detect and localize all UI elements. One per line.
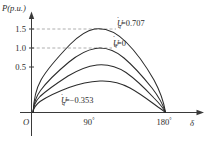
svg-text:U̇q=0: U̇q=0	[113, 36, 126, 48]
label3-dot: ̇	[61, 94, 63, 95]
x-axis-arrow	[197, 110, 205, 115]
label3-value: −0.353	[70, 96, 94, 105]
curve-uq-0	[33, 48, 166, 112]
curve-label-uq-0: U̇q=0	[113, 36, 126, 48]
label1-value: 0.707	[126, 19, 145, 28]
svg-text:U̇q=−0.353: U̇q=−0.353	[61, 94, 93, 106]
x-tick-90-number: 90	[84, 117, 93, 127]
y-tick-label-1point0: 1.0	[15, 43, 26, 53]
origin-label: O	[23, 117, 29, 127]
power-angle-curve-figure: 1.5 1.0 0.5 P(p.u.) O 90° 180° δ U̇q=0.7…	[0, 0, 212, 142]
svg-text:180°: 180°	[156, 117, 172, 127]
x-tick-180-number: 180	[156, 117, 169, 127]
y-axis-arrow	[29, 12, 34, 20]
svg-text:U̇q=0.707: U̇q=0.707	[117, 17, 145, 29]
curve-intermediate	[33, 65, 166, 113]
x-axis-title: δ	[190, 118, 195, 128]
guide-lines-group	[32, 29, 117, 48]
chart-canvas: 1.5 1.0 0.5 P(p.u.) O 90° 180° δ U̇q=0.7…	[0, 0, 212, 142]
curve-label-uq-minus0point353: U̇q=−0.353	[61, 94, 93, 106]
label2-dot: ̇	[113, 36, 115, 37]
x-tick-label-90: 90°	[84, 117, 96, 127]
x-tick-label-180: 180°	[156, 117, 172, 127]
x-tick-90-degree: °	[92, 117, 95, 123]
svg-text:90°: 90°	[84, 117, 96, 127]
y-tick-label-1point5: 1.5	[15, 24, 26, 34]
label1-dot: ̇	[117, 17, 119, 18]
curve-label-uq-0point707: U̇q=0.707	[117, 17, 145, 29]
label2-value: 0	[122, 39, 126, 48]
y-axis-title: P(p.u.)	[1, 3, 26, 13]
x-tick-180-degree: °	[169, 117, 172, 123]
axes-group	[20, 12, 204, 137]
curves-group	[33, 29, 166, 113]
curve-uq-0point707	[33, 29, 165, 113]
curve-uq-minus0point353	[33, 81, 166, 113]
y-tick-label-0point5: 0.5	[15, 62, 26, 72]
